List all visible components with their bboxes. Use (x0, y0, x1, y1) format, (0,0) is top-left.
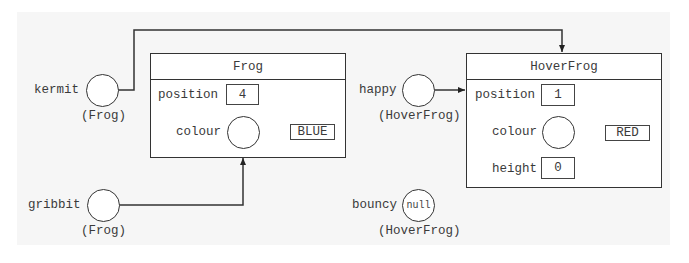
hoverfrog-colour-reference-circle (542, 116, 575, 149)
bouncy-null-value: null (406, 200, 430, 211)
happy-variable-name: happy (359, 83, 397, 97)
frog-position-value: 4 (226, 84, 259, 105)
hoverfrog-colour-label: colour (492, 125, 537, 139)
frog-colour-label: colour (176, 125, 221, 139)
hoverfrog-height-label: height (492, 162, 537, 176)
kermit-reference-circle (86, 74, 119, 107)
hoverfrog-height-value: 0 (541, 157, 575, 179)
bouncy-reference-circle: null (402, 189, 435, 222)
happy-reference-circle (402, 74, 435, 107)
happy-type-label: (HoverFrog) (378, 109, 461, 123)
hoverfrog-position-label: position (475, 88, 535, 102)
kermit-type-label: (Frog) (81, 109, 126, 123)
hoverfrog-colour-value: RED (605, 125, 650, 141)
gribbit-type-label: (Frog) (81, 224, 126, 238)
gribbit-reference-arrow (119, 158, 243, 205)
bouncy-variable-name: bouncy (352, 198, 397, 212)
hoverfrog-class-name: HoverFrog (467, 54, 661, 80)
bouncy-type-label: (HoverFrog) (378, 224, 461, 238)
frog-colour-reference-circle (227, 116, 260, 149)
gribbit-reference-circle (87, 189, 120, 222)
gribbit-variable-name: gribbit (28, 198, 81, 212)
hoverfrog-position-value: 1 (541, 84, 575, 106)
frog-class-name: Frog (151, 54, 345, 80)
frog-position-label: position (158, 88, 218, 102)
kermit-variable-name: kermit (34, 83, 79, 97)
frog-colour-value: BLUE (290, 124, 335, 140)
